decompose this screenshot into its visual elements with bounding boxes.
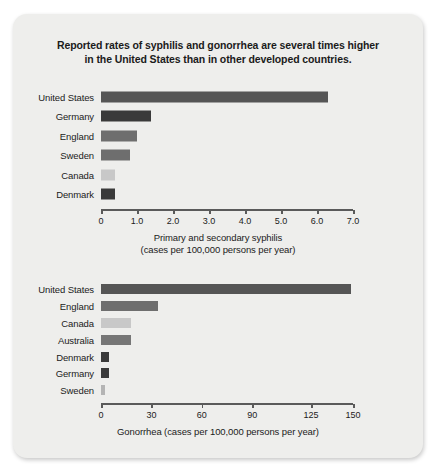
x-axis-tick-label: 3.0 — [203, 216, 216, 226]
chart-syphilis: United StatesGermanyEnglandSwedenCanadaD… — [13, 82, 423, 272]
plot-area-gonorrhea: United StatesEnglandCanadaAustraliaDenma… — [101, 277, 353, 403]
x-axis-tick-label: 5.0 — [275, 216, 288, 226]
x-axis-tick-label: 6.0 — [311, 216, 324, 226]
x-axis-tick — [137, 210, 139, 214]
figure-title-line-1: Reported rates of syphilis and gonorrhea… — [31, 38, 405, 52]
category-label: England — [60, 130, 94, 141]
figure-title-line-2: in the United States than in other devel… — [31, 52, 405, 66]
bar — [101, 91, 328, 102]
category-label: United States — [38, 284, 94, 295]
bar-row: United States — [101, 281, 353, 298]
category-label: Canada — [61, 169, 94, 180]
x-axis-title-gonorrhea-line-1: Gonorrhea (cases per 100,000 persons per… — [31, 426, 405, 438]
category-label: United States — [38, 91, 94, 102]
x-axis-tick — [353, 404, 355, 408]
x-axis-tick-label: 60 — [197, 410, 207, 420]
x-axis-title-syphilis: Primary and secondary syphilis (cases pe… — [31, 232, 405, 256]
x-axis-tick — [317, 210, 319, 214]
category-label: Germany — [56, 368, 94, 379]
x-axis-tick-label: 4.0 — [239, 216, 252, 226]
bar-row: Denmark — [101, 348, 353, 365]
x-axis-tick — [151, 404, 153, 408]
bar-row: Sweden — [101, 382, 353, 399]
bar — [101, 189, 115, 200]
x-axis-tick-label: 2.0 — [167, 216, 180, 226]
category-label: Germany — [56, 111, 94, 122]
bar — [101, 318, 131, 328]
x-axis-tick — [173, 210, 175, 214]
x-axis-tick-label: 125 — [303, 410, 318, 420]
bar-row: Denmark — [101, 185, 353, 205]
x-axis-line-gonorrhea — [101, 403, 353, 405]
bar — [101, 284, 351, 294]
x-axis-tick-label: 90 — [247, 410, 257, 420]
x-axis-tick — [252, 404, 254, 408]
x-axis-tick-label: 0 — [98, 216, 103, 226]
x-axis-tick — [202, 404, 204, 408]
bar — [101, 385, 105, 395]
bar-row: Sweden — [101, 146, 353, 166]
plot-area-syphilis: United StatesGermanyEnglandSwedenCanadaD… — [101, 82, 353, 209]
category-label: Australia — [58, 334, 94, 345]
bar — [101, 335, 131, 345]
category-label: Sweden — [60, 385, 94, 396]
x-axis-title-gonorrhea: Gonorrhea (cases per 100,000 persons per… — [31, 426, 405, 438]
x-axis-title-syphilis-line-1: Primary and secondary syphilis — [31, 232, 405, 244]
x-axis-tick — [101, 210, 103, 214]
bar — [101, 130, 137, 141]
x-axis-tick — [281, 210, 283, 214]
bar-row: Germany — [101, 107, 353, 127]
bar — [101, 352, 109, 362]
figure-card: Reported rates of syphilis and gonorrhea… — [13, 14, 423, 458]
x-axis-tick — [245, 210, 247, 214]
category-label: Denmark — [56, 189, 94, 200]
x-axis-tick-label: 0 — [98, 410, 103, 420]
x-axis-title-syphilis-line-2: (cases per 100,000 persons per year) — [31, 244, 405, 256]
bar — [101, 368, 109, 378]
bar-row: Germany — [101, 365, 353, 382]
x-axis-tick — [311, 404, 313, 408]
x-axis-tick-label: 7.0 — [347, 216, 360, 226]
category-label: Canada — [61, 317, 94, 328]
bar-row: England — [101, 298, 353, 315]
bar-row: Australia — [101, 331, 353, 348]
bar-row: Canada — [101, 315, 353, 332]
bar — [101, 301, 158, 311]
category-label: Denmark — [56, 351, 94, 362]
x-axis-tick — [353, 210, 355, 214]
x-axis-tick-label: 1.0 — [131, 216, 144, 226]
bar — [101, 150, 130, 161]
bar-row: Canada — [101, 165, 353, 185]
bar — [101, 111, 151, 122]
bar-row: United States — [101, 87, 353, 107]
category-label: Sweden — [60, 150, 94, 161]
x-axis-tick-label: 150 — [345, 410, 360, 420]
bar-row: England — [101, 126, 353, 146]
x-axis-tick — [209, 210, 211, 214]
category-label: England — [60, 301, 94, 312]
x-axis-tick-label: 30 — [146, 410, 156, 420]
figure-title: Reported rates of syphilis and gonorrhea… — [31, 38, 405, 66]
chart-gonorrhea: United StatesEnglandCanadaAustraliaDenma… — [13, 277, 423, 457]
x-axis-tick — [101, 404, 103, 408]
x-axis-line-syphilis — [101, 209, 353, 211]
bar — [101, 169, 115, 180]
